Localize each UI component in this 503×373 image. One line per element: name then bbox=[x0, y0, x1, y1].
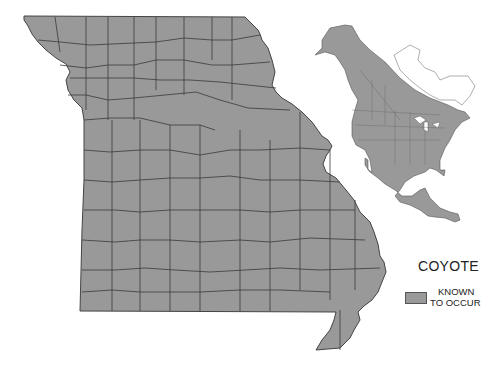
legend-label-line1: KNOWN bbox=[430, 286, 481, 297]
legend-swatch-known bbox=[405, 292, 427, 304]
legend-label-line2: TO OCCUR bbox=[430, 297, 481, 308]
legend-label-known: KNOWN TO OCCUR bbox=[430, 286, 481, 308]
missouri-county-map bbox=[0, 0, 503, 373]
missouri-state-shape bbox=[24, 16, 386, 350]
legend-title: COYOTE bbox=[418, 258, 479, 274]
